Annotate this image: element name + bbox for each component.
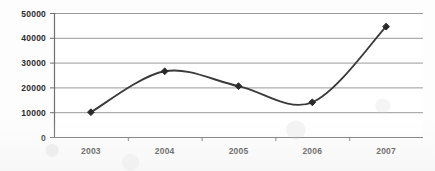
line-chart: 01000020000300004000050000 2003200420052… — [0, 0, 435, 171]
x-axis-tick-label: 2003 — [81, 146, 101, 156]
y-axis-tick-label: 10000 — [21, 108, 46, 118]
y-axis-ticks — [50, 14, 54, 138]
x-axis-tick-label: 2006 — [302, 146, 322, 156]
y-axis-tick-label: 20000 — [21, 83, 46, 93]
chart-page: 01000020000300004000050000 2003200420052… — [0, 0, 435, 171]
y-axis-tick-label: 30000 — [21, 58, 46, 68]
y-axis-tick-label: 0 — [41, 133, 46, 143]
plot-background — [54, 13, 423, 137]
x-axis-tick-label: 2007 — [376, 146, 396, 156]
x-axis-tick-label: 2005 — [229, 146, 249, 156]
y-axis-tick-label: 40000 — [21, 33, 46, 43]
x-axis-tick-label: 2004 — [155, 146, 175, 156]
y-axis-tick-labels: 01000020000300004000050000 — [21, 9, 46, 143]
x-axis-tick-labels: 20032004200520062007 — [81, 146, 396, 156]
y-axis-tick-label: 50000 — [21, 9, 46, 19]
